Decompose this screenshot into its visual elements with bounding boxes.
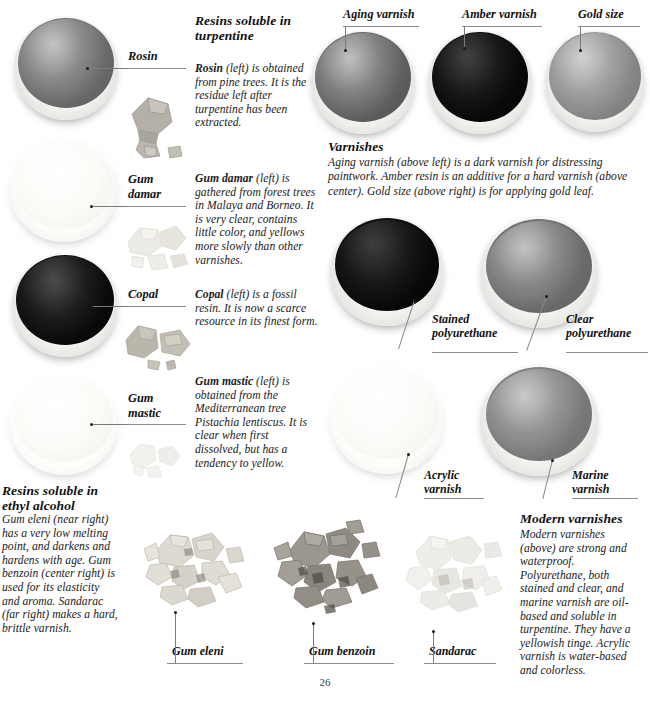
heading-modern-varnishes: Modern varnishes xyxy=(520,512,623,527)
heading-line2: ethyl alcohol xyxy=(2,498,75,513)
leader-line-amber-varnish xyxy=(464,26,465,48)
heading-text: Varnishes xyxy=(328,139,384,154)
leader-line-copal xyxy=(92,306,128,307)
paragraph-ethyl-alcohol: Gum eleni (near right) has a very low me… xyxy=(2,513,118,635)
callout-rule-copal xyxy=(128,306,186,307)
heading-text: Resins soluble in turpentine xyxy=(195,13,291,43)
rosin-lumps-svg xyxy=(120,88,192,162)
sample-dish-amber-varnish xyxy=(428,30,532,134)
paragraph-body: gathered from forest trees in Malaya and… xyxy=(195,186,315,267)
callout-rule-gum-mastic xyxy=(128,424,186,425)
gum-damar-lumps-svg xyxy=(118,212,194,284)
leader-line-gum-benzoin xyxy=(313,624,314,663)
leader-line-gold-size xyxy=(580,26,581,50)
resin-lumps-gum-mastic xyxy=(120,430,194,488)
callout-gum-mastic: Gum mastic xyxy=(128,391,161,421)
callout-label-line2: varnish xyxy=(572,482,609,496)
pointer-dot-clear-polyurethane xyxy=(545,295,548,298)
callout-sandarac: Sandarac xyxy=(429,645,476,659)
pointer-dot-gum-benzoin xyxy=(312,622,315,625)
sample-dish-acrylic-varnish xyxy=(330,364,444,474)
paragraph-body: Aging varnish (above left) is a dark var… xyxy=(328,156,627,198)
pointer-dot-copal xyxy=(90,305,93,308)
sample-dish-stained-polyurethane xyxy=(330,216,444,326)
paragraph-lead: Rosin xyxy=(195,62,223,75)
paragraph-qualifier: (left) is xyxy=(256,375,290,388)
heading-resins-ethyl-alcohol: Resins soluble in ethyl alcohol xyxy=(2,484,132,513)
paragraph-body: resin. It is now a scarce resource in it… xyxy=(195,302,318,329)
heading-resins-turpentine: Resins soluble in turpentine xyxy=(195,14,313,43)
dish-liquid xyxy=(549,32,641,120)
callout-gum-eleni: Gum eleni xyxy=(172,645,224,659)
paragraph-body: Gum eleni (near right) has a very low me… xyxy=(2,513,118,635)
callout-rule-gum-eleni xyxy=(167,663,243,664)
callout-label-line2: damar xyxy=(128,187,161,201)
leader-line-gum-mastic xyxy=(92,424,128,425)
page-number-text: 26 xyxy=(320,676,331,688)
resin-pile-gum-eleni xyxy=(140,515,250,625)
pointer-dot-aging-varnish xyxy=(344,49,347,52)
leader-line-gum-damar xyxy=(92,206,128,207)
paragraph-qualifier: (left) is xyxy=(256,172,290,185)
callout-gum-damar: Gum damar xyxy=(128,172,161,202)
dish-liquid xyxy=(15,141,113,229)
pointer-dot-gum-mastic xyxy=(90,423,93,426)
pointer-dot-rosin xyxy=(86,67,89,70)
callout-clear-polyurethane: Clear polyurethane xyxy=(566,312,631,340)
callout-rule-stained-polyurethane xyxy=(432,352,518,353)
callout-rule-acrylic-varnish xyxy=(424,498,484,499)
paragraph-rosin: Rosin (left) is obtained from pine trees… xyxy=(195,62,313,130)
callout-label: Sandarac xyxy=(429,644,476,658)
heading-line1: Resins soluble in xyxy=(2,483,98,498)
dish-liquid xyxy=(16,255,114,345)
dish-liquid xyxy=(15,376,113,462)
paragraph-body: Modern varnishes (above) are strong and … xyxy=(520,528,631,677)
resin-lumps-copal xyxy=(118,316,196,384)
pointer-dot-gum-damar xyxy=(90,205,93,208)
dish-liquid xyxy=(335,218,439,311)
callout-label-line2: polyurethane xyxy=(432,326,497,340)
callout-label: Rosin xyxy=(128,49,158,63)
pointer-dot-gold-size xyxy=(579,49,582,52)
heading-varnishes: Varnishes xyxy=(328,140,384,155)
sample-dish-aging-varnish xyxy=(311,30,415,134)
page-number: 26 xyxy=(305,676,345,688)
paragraph-qualifier: (left) is xyxy=(226,62,260,75)
pointer-dot-acrylic-varnish xyxy=(407,453,410,456)
callout-acrylic-varnish: Acrylic varnish xyxy=(424,468,461,496)
callout-label-line1: Acrylic xyxy=(424,468,459,482)
callout-gum-benzoin: Gum benzoin xyxy=(309,645,375,659)
sample-dish-gold-size xyxy=(545,30,645,132)
callout-label: Gum eleni xyxy=(172,644,224,658)
gum-eleni-pile-svg xyxy=(140,515,250,625)
callout-amber-varnish: Amber varnish xyxy=(462,8,537,22)
callout-marine-varnish: Marine varnish xyxy=(572,468,609,496)
sample-dish-marine-varnish xyxy=(480,364,598,476)
callout-rule-marine-varnish xyxy=(572,498,638,499)
callout-label-line2: polyurethane xyxy=(566,326,631,340)
leader-line-rosin xyxy=(88,68,128,69)
paragraph-varnishes: Aging varnish (above left) is a dark var… xyxy=(328,156,648,199)
sample-dish-copal xyxy=(12,253,118,357)
paragraph-lead: Gum damar xyxy=(195,172,253,185)
leader-line-sandarac xyxy=(433,632,434,663)
callout-label: Amber varnish xyxy=(462,7,537,21)
sandarac-pile-svg xyxy=(402,518,506,626)
pointer-dot-gum-eleni xyxy=(174,611,177,614)
callout-label: Aging varnish xyxy=(343,7,414,21)
leader-line-aging-varnish xyxy=(345,26,346,50)
callout-rule-gold-size xyxy=(578,26,640,27)
callout-rule-rosin xyxy=(128,68,186,69)
pointer-dot-stained-polyurethane xyxy=(413,299,416,302)
callout-rule-amber-varnish xyxy=(462,26,542,27)
leader-line-gum-eleni xyxy=(175,613,176,663)
resin-lumps-gum-damar xyxy=(118,212,194,284)
callout-rosin: Rosin xyxy=(128,50,158,64)
callout-copal: Copal xyxy=(128,288,158,302)
callout-label-line2: varnish xyxy=(424,482,461,496)
paragraph-lead: Copal xyxy=(195,288,224,301)
pointer-dot-amber-varnish xyxy=(463,47,466,50)
resin-lumps-rosin xyxy=(120,88,192,162)
heading-text: Modern varnishes xyxy=(520,511,623,526)
callout-rule-gum-benzoin xyxy=(304,663,394,664)
